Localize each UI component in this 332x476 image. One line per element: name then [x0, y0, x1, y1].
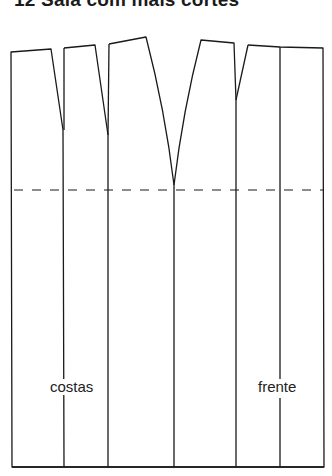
back-side-panel	[11, 49, 64, 467]
back-dart-2	[108, 44, 109, 135]
front-label: frente	[257, 379, 297, 395]
skirt-pattern-diagram	[0, 0, 332, 476]
back-label: costas	[49, 379, 94, 395]
back-center-seam-panel	[108, 37, 174, 467]
back-center-panel	[64, 45, 108, 467]
front-side-panel	[174, 40, 236, 467]
front-dart	[236, 45, 248, 100]
